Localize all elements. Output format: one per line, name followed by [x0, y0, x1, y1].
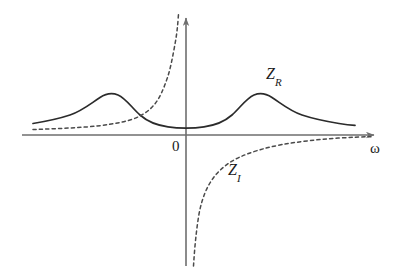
- real-part-curve-label: ZR: [266, 65, 282, 85]
- origin-label: 0: [172, 138, 180, 155]
- imaginary-part-curve-right-branch: [194, 137, 372, 266]
- imaginary-part-label-base: Z: [228, 161, 237, 178]
- imaginary-part-curve-label: ZI: [228, 161, 241, 181]
- real-part-label-subscript: R: [275, 76, 282, 88]
- impedance-spectrum-figure: [0, 0, 402, 278]
- imaginary-part-curve-left-branch: [33, 13, 179, 130]
- real-part-label-base: Z: [266, 65, 275, 82]
- real-part-curve: [33, 94, 355, 129]
- imaginary-part-label-subscript: I: [237, 172, 241, 184]
- x-axis-label-omega: ω: [370, 140, 380, 157]
